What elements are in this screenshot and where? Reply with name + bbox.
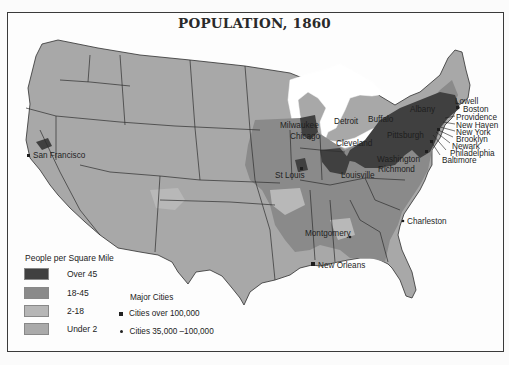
city-label-new-orleans: New Orleans (318, 262, 365, 270)
legend-item-under-2: Under 2 (24, 323, 97, 335)
major-cities-item-35000-100000: Cities 35,000 –100,000 (119, 327, 214, 336)
city-marker-san-francisco (27, 154, 30, 157)
city-label-washington: Washington (377, 156, 420, 164)
city-label-richmond: Richmond (378, 166, 415, 174)
city-marker-charleston (402, 220, 405, 223)
legend-swatch (24, 305, 49, 317)
legend-item-over-45: Over 45 (24, 268, 97, 280)
dot-marker-icon (120, 330, 123, 333)
city-label-charleston: Charleston (407, 218, 447, 226)
legend-swatch (24, 268, 49, 280)
city-label-baltimore: Baltimore (442, 157, 477, 165)
legend-swatch (24, 287, 49, 299)
city-label-pittsburgh: Pittsburgh (387, 132, 424, 140)
city-label-montgomery: Montgomery (305, 230, 351, 238)
major-cities-item-over-100000: Cities over 100,000 (119, 309, 200, 318)
city-marker-baltimore (425, 150, 428, 153)
city-label-milwaukee: Milwaukee (280, 122, 319, 130)
legend-swatch (24, 323, 49, 335)
major-cities-label: Cities 35,000 –100,000 (130, 327, 214, 336)
city-label-buffalo: Buffalo (368, 116, 393, 124)
city-label-detroit: Detroit (334, 118, 358, 126)
legend-label: 18-45 (67, 288, 89, 298)
square-marker-icon (119, 312, 123, 316)
city-marker-st-louis (300, 167, 303, 170)
city-label-louisville: Louisville (341, 172, 375, 180)
city-marker-boston (456, 106, 459, 109)
legend-item-18-45: 18-45 (24, 287, 89, 299)
major-cities-legend-title: Major Cities (130, 293, 173, 302)
city-marker-new-orleans (311, 262, 315, 266)
city-label-chicago: Chicago (290, 133, 320, 141)
legend-item-2-18: 2-18 (24, 305, 84, 317)
city-label-st-louis: St Louis (275, 172, 305, 180)
legend-label: 2-18 (67, 306, 84, 316)
city-label-cleveland: Cleveland (336, 140, 372, 148)
legend-label: Under 2 (67, 324, 97, 334)
density-legend-title: People per Square Mile (25, 253, 114, 263)
major-cities-label: Cities over 100,000 (129, 309, 200, 318)
legend-label: Over 45 (67, 269, 97, 279)
city-label-san-francisco: San Francisco (33, 152, 85, 160)
city-label-albany: Albany (410, 106, 435, 114)
